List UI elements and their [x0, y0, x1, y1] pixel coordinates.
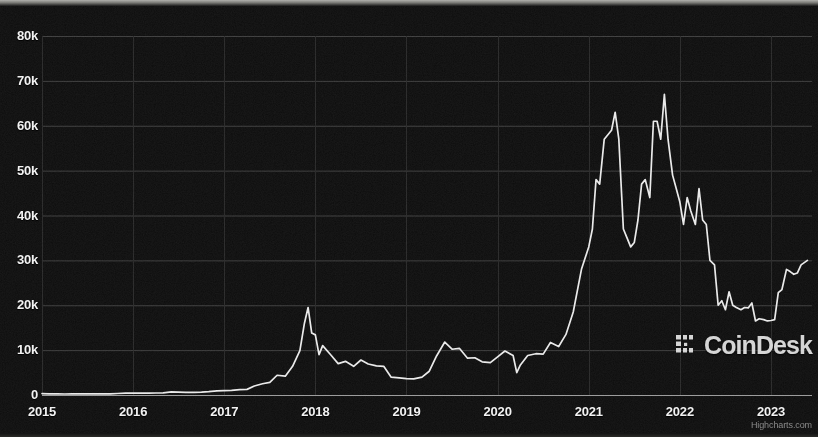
y-axis-tick-label: 30k [2, 252, 38, 267]
x-axis-tick-label: 2022 [652, 404, 708, 419]
x-axis-tick-label: 2018 [287, 404, 343, 419]
y-axis-tick-label: 60k [2, 118, 38, 133]
top-edge-artifact [0, 0, 818, 6]
coindesk-watermark-text: CoinDesk [704, 331, 812, 360]
y-axis-tick-label: 0 [2, 387, 38, 402]
y-axis-tick-label: 80k [2, 28, 38, 43]
highcharts-credit: Highcharts.com [751, 420, 812, 430]
y-axis-tick-label: 50k [2, 163, 38, 178]
y-axis-tick-label: 40k [2, 208, 38, 223]
x-axis-tick-label: 2021 [561, 404, 617, 419]
bottom-edge-artifact [0, 433, 818, 437]
bitcoin-price-chart: 010k20k30k40k50k60k70k80k 20152016201720… [0, 0, 818, 437]
y-axis-tick-label: 10k [2, 342, 38, 357]
x-axis-tick-label: 2020 [470, 404, 526, 419]
x-axis-tick-label: 2016 [105, 404, 161, 419]
coindesk-bracket-icon [675, 334, 698, 357]
x-axis-tick-label: 2019 [378, 404, 434, 419]
coindesk-watermark: CoinDesk [675, 331, 812, 360]
x-axis-tick-label: 2023 [743, 404, 799, 419]
y-axis-tick-label: 70k [2, 73, 38, 88]
chart-plot-area [0, 0, 818, 437]
y-axis-tick-label: 20k [2, 297, 38, 312]
x-axis-tick-label: 2015 [14, 404, 70, 419]
x-axis-tick-label: 2017 [196, 404, 252, 419]
